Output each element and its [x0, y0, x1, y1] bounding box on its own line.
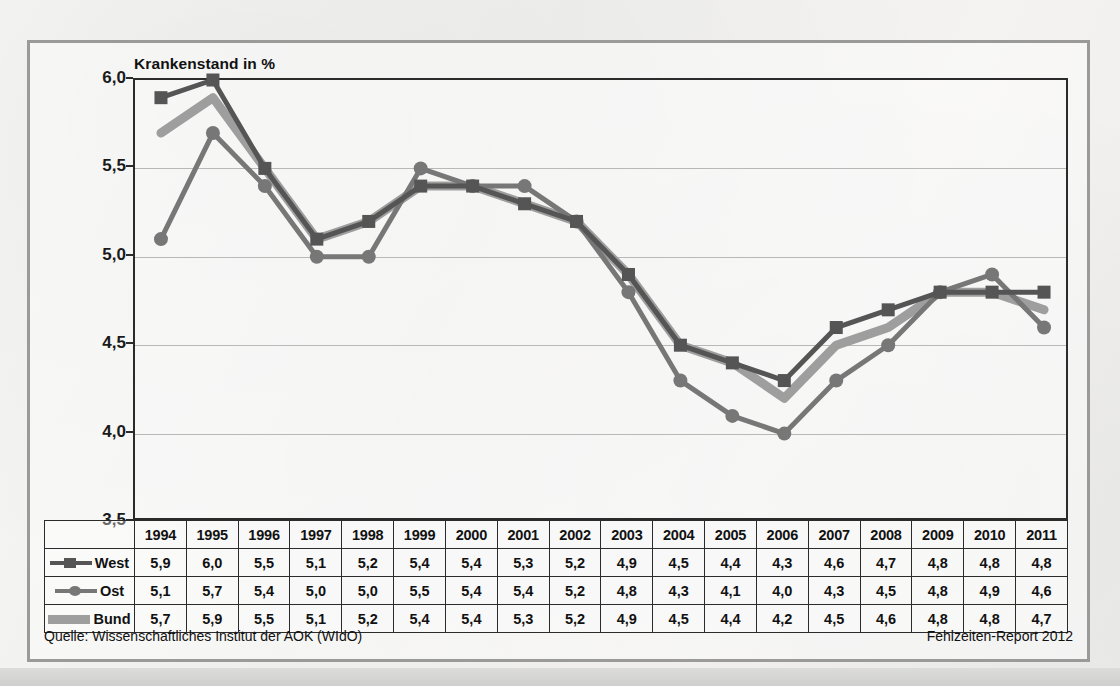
- table-column-header: 1996: [238, 521, 290, 549]
- table-cell: 4,9: [964, 577, 1016, 605]
- table-cell: 4,8: [964, 549, 1016, 577]
- table-cell: 5,4: [394, 549, 446, 577]
- data-point-marker: [934, 286, 947, 299]
- series-line: [161, 80, 1044, 381]
- legend-label: Ost: [100, 583, 124, 599]
- data-point-marker: [414, 161, 428, 175]
- table-cell: 4,3: [756, 549, 808, 577]
- table-header-row: 1994199519961997199819992000200120022003…: [45, 521, 1068, 549]
- series-line: [161, 133, 1044, 434]
- data-point-marker: [154, 232, 168, 246]
- table-column-header: 2001: [497, 521, 549, 549]
- table-column-header: 2002: [549, 521, 601, 549]
- data-point-marker: [674, 339, 687, 352]
- data-point-marker: [881, 338, 895, 352]
- legend-label: West: [95, 555, 129, 571]
- table-cell: 5,9: [135, 549, 187, 577]
- table-column-header: 1997: [290, 521, 342, 549]
- table-cell: 4,1: [705, 577, 757, 605]
- table-column-header: 2008: [860, 521, 912, 549]
- data-point-marker: [621, 285, 635, 299]
- table-cell: 4,7: [860, 549, 912, 577]
- chart-title: Krankenstand in %: [134, 55, 275, 73]
- data-point-marker: [310, 233, 323, 246]
- report-label: Fehlzeiten-Report 2012: [927, 628, 1073, 644]
- y-axis-tick-label: 4,5: [102, 333, 126, 353]
- series-west: [154, 74, 1050, 388]
- legend-marker-square-icon: [64, 558, 76, 568]
- legend-label: Bund: [93, 611, 130, 627]
- y-axis-tick-mark: [126, 431, 133, 433]
- table-cell: 4,8: [912, 577, 964, 605]
- data-point-marker: [726, 356, 739, 369]
- data-point-marker: [518, 179, 532, 193]
- table-cell: 4,6: [808, 549, 860, 577]
- data-point-marker: [362, 250, 376, 264]
- table-cell: 4,8: [912, 549, 964, 577]
- table-cell: 5,4: [445, 577, 497, 605]
- y-axis-tick-label: 5,0: [102, 245, 126, 265]
- table-cell: 5,3: [497, 549, 549, 577]
- data-point-marker: [778, 374, 791, 387]
- table-cell: 5,7: [186, 577, 238, 605]
- table-cell: 5,4: [238, 577, 290, 605]
- y-axis-tick-label: 6,0: [102, 68, 126, 88]
- table-cell: 4,9: [601, 549, 653, 577]
- data-point-marker: [1038, 286, 1051, 299]
- legend-row-ost: Ost: [45, 577, 135, 605]
- data-point-marker: [466, 180, 479, 193]
- y-axis-tick-mark: [126, 342, 133, 344]
- data-point-marker: [154, 91, 167, 104]
- legend-swatch-bund-icon: [48, 612, 90, 626]
- table-column-header: 2006: [756, 521, 808, 549]
- table-column-header: 2005: [705, 521, 757, 549]
- table-column-header: 2007: [808, 521, 860, 549]
- data-point-marker: [673, 374, 687, 388]
- table-cell: 4,6: [1016, 577, 1068, 605]
- series-group: [135, 80, 1070, 522]
- data-point-marker: [986, 286, 999, 299]
- table-cell: 5,0: [290, 577, 342, 605]
- data-point-marker: [985, 267, 999, 281]
- table-column-header: 2011: [1016, 521, 1068, 549]
- table-row: West5,96,05,55,15,25,45,45,35,24,94,54,4…: [45, 549, 1068, 577]
- legend-marker-circle-icon: [69, 586, 81, 596]
- table-row: Ost5,15,75,45,05,05,55,45,45,24,84,34,14…: [45, 577, 1068, 605]
- data-point-marker: [414, 180, 427, 193]
- table-cell: 4,8: [601, 577, 653, 605]
- data-point-marker: [725, 409, 739, 423]
- y-axis-tick-label: 4,0: [102, 422, 126, 442]
- data-point-marker: [1037, 321, 1051, 335]
- data-point-marker: [206, 74, 219, 87]
- y-axis-tick-mark: [126, 165, 133, 167]
- table-column-header: 1995: [186, 521, 238, 549]
- series-ost: [154, 126, 1051, 441]
- y-axis-tick-mark: [126, 254, 133, 256]
- data-point-marker: [570, 215, 583, 228]
- data-point-marker: [518, 197, 531, 210]
- table-column-header: 1998: [342, 521, 394, 549]
- table-column-header: 1999: [394, 521, 446, 549]
- table-corner-cell: [45, 521, 135, 549]
- table-column-header: 2000: [445, 521, 497, 549]
- table-cell: 5,5: [394, 577, 446, 605]
- table-cell: 5,2: [342, 549, 394, 577]
- data-point-marker: [310, 250, 324, 264]
- legend-row-west: West: [45, 549, 135, 577]
- data-point-marker: [206, 126, 220, 140]
- data-table: 1994199519961997199819992000200120022003…: [44, 520, 1068, 633]
- table-cell: 5,0: [342, 577, 394, 605]
- table-cell: 6,0: [186, 549, 238, 577]
- data-point-marker: [777, 427, 791, 441]
- table-cell: 4,0: [756, 577, 808, 605]
- page-bottom-band: [0, 668, 1120, 686]
- data-point-marker: [362, 215, 375, 228]
- data-point-marker: [830, 321, 843, 334]
- table-cell: 5,2: [549, 549, 601, 577]
- table-cell: 4,4: [705, 549, 757, 577]
- table-cell: 5,2: [549, 577, 601, 605]
- y-axis-tick-mark: [126, 77, 133, 79]
- data-point-marker: [829, 374, 843, 388]
- data-point-marker: [882, 303, 895, 316]
- table-cell: 5,1: [290, 549, 342, 577]
